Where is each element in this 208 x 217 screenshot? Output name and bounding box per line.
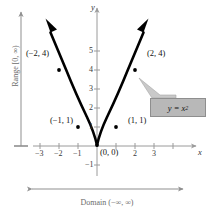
equation-callout-text: y = x2	[151, 99, 205, 116]
y-tick-label-2: 2	[89, 104, 93, 112]
point-label-2-4: (2, 4)	[147, 49, 165, 58]
equation-callout-box: y = x2	[150, 98, 206, 117]
point-marker-neg1-1	[76, 125, 80, 129]
y-tick-label-1: 1	[89, 123, 93, 131]
y-tick-label-neg1: −1	[85, 161, 94, 169]
point-marker-neg2-4	[57, 68, 61, 72]
y-axis-name: y	[91, 3, 95, 12]
equation-base: y = x	[168, 103, 186, 113]
point-marker-0-0	[95, 143, 99, 147]
point-label-neg2-4: (−2, 4)	[26, 49, 49, 58]
point-marker-2-4	[133, 68, 137, 72]
x-axis-name: x	[198, 148, 202, 157]
y-tick-label-3: 3	[89, 85, 93, 93]
x-tick-label-neg1: −1	[73, 150, 82, 158]
y-tick-label-4: 4	[89, 66, 93, 74]
parabola-figure: −3 −2 −1 2 3 −1 1 2 3 4 5 x y (−2, 4) (2…	[0, 0, 208, 217]
x-tick-label-neg3: −3	[35, 150, 44, 158]
x-tick-label-3: 3	[152, 150, 156, 158]
point-label-1-1: (1, 1)	[128, 116, 146, 125]
point-label-neg1-1: (−1, 1)	[50, 116, 73, 125]
y-tick-label-5: 5	[89, 47, 93, 55]
x-tick-label-2: 2	[133, 150, 137, 158]
range-label: Range [0, ∞)	[12, 30, 20, 102]
point-marker-1-1	[114, 125, 118, 129]
point-label-0-0: (0, 0)	[100, 148, 118, 157]
callout-leader	[139, 78, 176, 98]
x-tick-label-neg2: −2	[54, 150, 63, 158]
domain-label: Domain (−∞, ∞)	[42, 199, 172, 207]
